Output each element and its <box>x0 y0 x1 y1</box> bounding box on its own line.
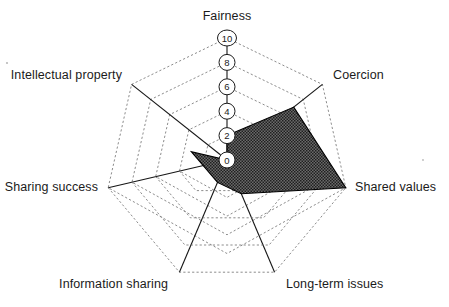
tick-label-6: 6 <box>224 81 229 92</box>
radar-chart-canvas: 10 8 6 4 2 0 Fai <box>0 0 449 307</box>
tick-label-4: 4 <box>224 106 229 117</box>
tick-6: 6 <box>219 79 235 95</box>
axis-label-fairness: Fairness <box>203 9 252 23</box>
tick-label-10: 10 <box>222 33 233 44</box>
axis-label-sharing-success: Sharing success <box>5 180 98 194</box>
tick-label-2: 2 <box>224 130 229 141</box>
axis-label-long-term-issues: Long-term issues <box>286 277 383 291</box>
tick-label-0: 0 <box>224 155 229 166</box>
tick-label-8: 8 <box>224 57 229 68</box>
radar-chart: 10 8 6 4 2 0 Fai <box>0 0 449 307</box>
tick-10: 10 <box>218 30 237 46</box>
tick-2: 2 <box>219 128 235 144</box>
axis-label-coercion: Coercion <box>333 68 384 82</box>
tick-8: 8 <box>219 54 235 70</box>
tick-4: 4 <box>219 103 235 119</box>
axis-label-information-sharing: Information sharing <box>59 277 168 291</box>
axis-label-intellectual-property: Intellectual property <box>11 68 123 82</box>
axis-label-shared-values: Shared values <box>355 180 436 194</box>
tick-0: 0 <box>219 152 235 168</box>
